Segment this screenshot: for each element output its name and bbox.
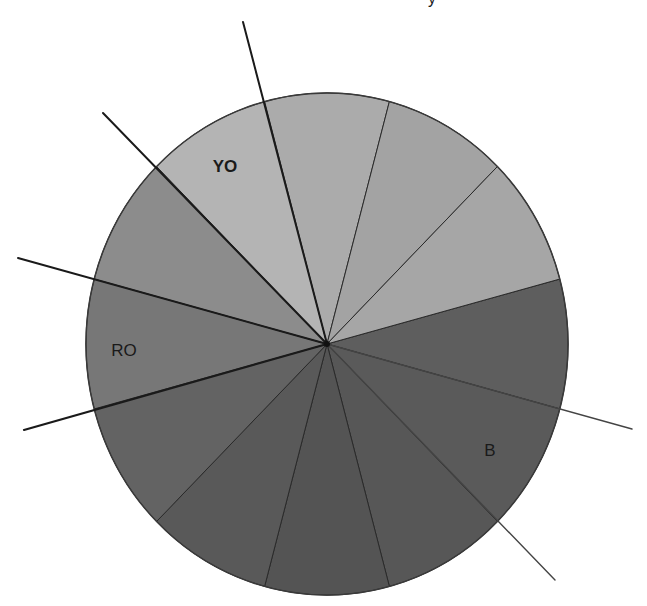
sector-label-yo: YO xyxy=(213,157,238,176)
sector-label-ro: RO xyxy=(111,341,137,360)
sector-wheel-diagram: y YOROB xyxy=(0,0,647,606)
center-point xyxy=(324,341,330,347)
title-fragment: y xyxy=(428,0,436,7)
sector-label-b: B xyxy=(484,441,495,460)
